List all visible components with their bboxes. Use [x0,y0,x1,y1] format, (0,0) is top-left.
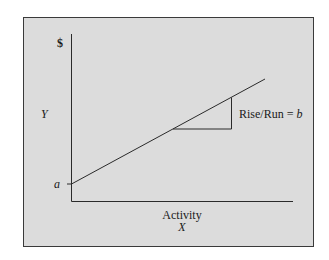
intercept-label: a [54,177,60,191]
cost-function-diagram: $ Y a Rise/Run = b Activity X [0,0,329,260]
slope-annotation: Rise/Run = b [239,107,302,121]
y-axis-unit-label: $ [57,36,63,50]
x-axis-variable-label: X [177,220,186,234]
slope-variable: b [296,107,302,121]
slope-annotation-prefix: Rise/Run = [239,107,296,121]
